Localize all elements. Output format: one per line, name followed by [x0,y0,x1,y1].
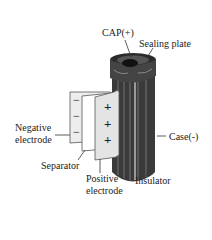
negative-sign: − [73,127,80,138]
positive-sign: + [104,101,111,112]
label-positive-electrode: Positive [86,173,118,184]
label-positive-electrode-2: electrode [86,185,123,196]
negative-sign: − [73,111,80,122]
positive-sign: + [104,134,111,145]
label-case: Case(-) [169,131,198,142]
label-negative-electrode: Negative [15,122,51,133]
label-cap: CAP(+) [102,27,134,38]
negative-sign: − [73,95,80,106]
label-sealing-plate: Sealing plate [139,38,191,49]
label-separator: Separator [41,160,79,171]
label-insulator: Insulator [135,175,171,186]
label-negative-electrode-2: electrode [15,134,52,145]
positive-sign: + [104,118,111,129]
